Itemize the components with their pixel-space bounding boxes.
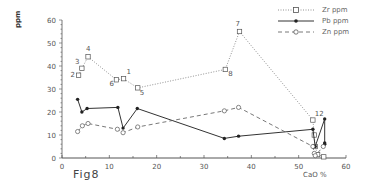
legend-label-zr: Zr ppm — [322, 6, 348, 14]
legend-item-zr: Zr ppm — [278, 4, 368, 15]
x-tick-label: 40 — [247, 163, 256, 171]
legend-label-pb: Pb ppm — [322, 17, 349, 25]
point-label: 1 — [127, 68, 131, 76]
point-label: 3 — [75, 58, 79, 66]
circle-marker-icon — [76, 129, 80, 133]
x-tick-label: 0 — [60, 163, 64, 171]
solid-dot-line-icon — [278, 17, 314, 25]
dot-marker-icon — [121, 126, 124, 129]
circle-marker-icon — [311, 144, 315, 148]
dot-marker-icon — [311, 128, 314, 131]
dot-marker-icon — [237, 134, 240, 137]
point-label: 12 — [315, 110, 324, 118]
circle-marker-icon — [80, 124, 84, 128]
dot-marker-icon — [116, 106, 119, 109]
y-axis-label: ppm — [14, 11, 22, 28]
y-tick-label: 40 — [47, 63, 56, 71]
point-label: 8 — [228, 70, 232, 78]
y-tick-label: 0 — [52, 155, 56, 163]
point-label: 6 — [109, 80, 114, 88]
x-tick-label: 10 — [105, 163, 114, 171]
circle-marker-icon — [121, 131, 125, 135]
point-label: 2 — [71, 71, 75, 79]
y-tick-label: 10 — [47, 132, 56, 140]
square-marker-icon — [223, 67, 227, 71]
square-marker-icon — [76, 73, 80, 77]
dotted-square-line-icon — [278, 6, 314, 14]
dot-marker-icon — [80, 110, 83, 113]
dot-marker-icon — [223, 137, 226, 140]
dot-marker-icon — [76, 98, 79, 101]
circle-marker-icon — [86, 121, 90, 125]
y-tick-label: 50 — [47, 40, 56, 48]
dashed-circle-line-icon — [278, 28, 314, 36]
circle-marker-icon — [136, 125, 140, 129]
y-tick-label: 20 — [47, 109, 56, 117]
point-label: 7 — [236, 20, 240, 28]
x-tick-label: 50 — [294, 163, 303, 171]
circle-marker-icon — [222, 109, 226, 113]
square-marker-icon — [114, 78, 118, 82]
x-tick-label: 20 — [152, 163, 161, 171]
square-marker-icon — [86, 55, 90, 59]
square-marker-icon — [80, 66, 84, 70]
legend-label-zn: Zn ppm — [322, 28, 349, 36]
square-marker-icon — [322, 155, 326, 159]
circle-marker-icon — [115, 127, 119, 131]
dot-marker-icon — [136, 107, 139, 110]
legend: Zr ppm Pb ppm Zn ppm — [278, 4, 368, 37]
square-marker-icon — [311, 118, 315, 122]
point-label: 5 — [140, 89, 144, 97]
circle-marker-icon — [321, 144, 325, 148]
square-marker-icon — [237, 29, 241, 33]
x-tick-label: 30 — [200, 163, 209, 171]
x-tick-label: 60 — [342, 163, 351, 171]
x-axis-label: CaO % — [303, 171, 327, 179]
legend-item-pb: Pb ppm — [278, 15, 368, 26]
circle-marker-icon — [313, 154, 317, 158]
dot-marker-icon — [323, 117, 326, 120]
legend-item-zn: Zn ppm — [278, 26, 368, 37]
point-label: 4 — [86, 45, 91, 53]
y-tick-label: 30 — [47, 86, 56, 94]
series-line-dotted — [79, 32, 324, 157]
square-marker-icon — [121, 76, 125, 80]
y-tick-label: 60 — [47, 17, 56, 25]
dot-marker-icon — [85, 107, 88, 110]
circle-marker-icon — [236, 105, 240, 109]
series-line-solid — [78, 99, 325, 146]
figure-label: Fig8 — [73, 168, 100, 181]
